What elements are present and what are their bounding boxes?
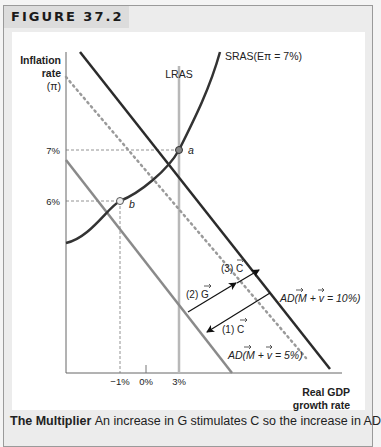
ad-high-label: AD(M + v = 10%): [279, 292, 361, 304]
lras-label: LRAS: [165, 68, 192, 80]
y-axis-label-1: Inflation: [20, 54, 61, 66]
arrow-2-label: (2) G: [186, 289, 209, 300]
arrow-3-label: (3) C: [221, 263, 243, 274]
point-b-marker: [117, 198, 124, 205]
figure-caption: The Multiplier An increase in G stimulat…: [10, 414, 381, 428]
caption-text: An increase in G stimulates C so the inc…: [95, 414, 381, 428]
ad-low-line: [66, 160, 232, 373]
sras-curve: [66, 52, 220, 243]
ad-low-label: AD(M + v = 5%): [227, 349, 303, 361]
tick-m1-label: −1%: [110, 376, 130, 387]
tick-0-label: 0%: [139, 376, 153, 387]
point-b-label: b: [129, 198, 135, 210]
caption-title: The Multiplier: [10, 414, 91, 428]
sras-label: SRAS(Eπ = 7%): [225, 50, 302, 62]
point-a-label: a: [188, 144, 194, 156]
arrow-1-label: (1) C: [222, 324, 244, 335]
y-axis-label-3: (π): [47, 80, 61, 92]
tick-7-label: 7%: [46, 145, 60, 156]
y-axis-label-2: rate: [42, 67, 61, 79]
tick-6-label: 6%: [46, 196, 60, 207]
tick-3-label: 3%: [172, 376, 186, 387]
point-a-marker: [176, 147, 183, 154]
x-axis-label-2: growth rate: [293, 399, 350, 411]
x-axis-label-1: Real GDP: [302, 386, 350, 398]
ad-high-line: [80, 52, 330, 369]
